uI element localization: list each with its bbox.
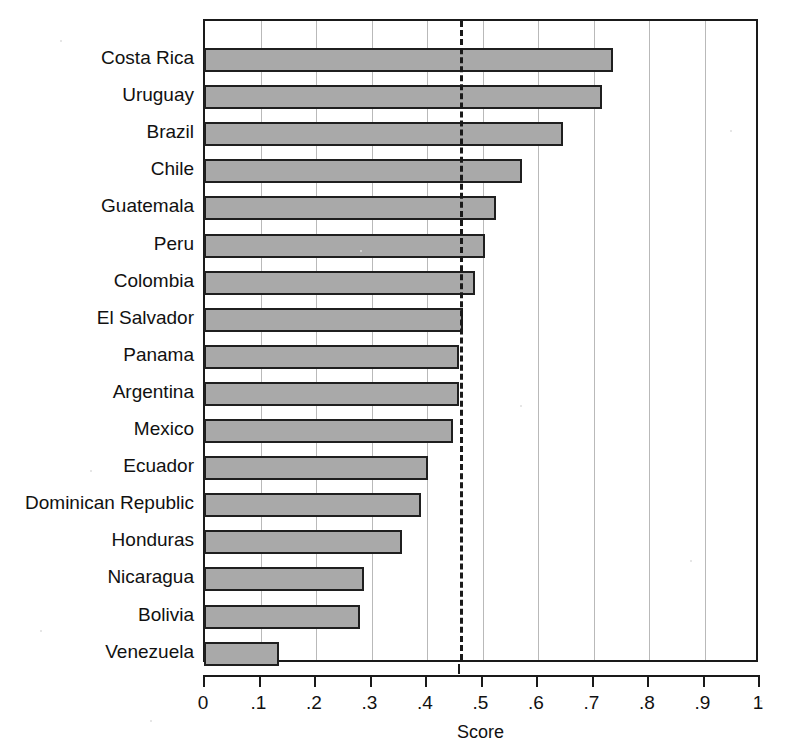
gridline [594,21,595,660]
category-axis-labels: Costa RicaUruguayBrazilChileGuatemalaPer… [0,19,203,662]
x-tick [203,675,205,687]
x-tick-label: 1 [738,692,778,714]
x-axis-title: Score [203,722,758,743]
bar [204,530,402,554]
x-tick [647,675,649,687]
bar [204,271,475,295]
plot-area [203,19,758,662]
x-tick-label: .8 [627,692,667,714]
category-label-chile: Chile [3,157,203,181]
category-label-argentina: Argentina [3,380,203,404]
x-minor-tick [458,664,460,674]
bar [204,642,279,666]
bar-chart: Costa RicaUruguayBrazilChileGuatemalaPer… [0,0,790,753]
bar [204,196,496,220]
speckle [150,720,152,722]
x-tick-label: .7 [572,692,612,714]
category-label-ecuador: Ecuador [3,454,203,478]
gridline [316,21,317,660]
bar [204,493,421,517]
x-tick [758,675,760,687]
bar [204,382,459,406]
x-tick [703,675,705,687]
bar [204,48,613,72]
bar [204,345,459,369]
category-label-colombia: Colombia [3,269,203,293]
bar [204,456,428,480]
category-label-venezuela: Venezuela [3,640,203,664]
bar [204,605,360,629]
x-tick [370,675,372,687]
x-tick [259,675,261,687]
category-label-honduras: Honduras [3,528,203,552]
category-label-uruguay: Uruguay [3,83,203,107]
x-tick-label: .6 [516,692,556,714]
x-tick-label: .1 [239,692,279,714]
bar [204,234,485,258]
x-tick-label: .9 [683,692,723,714]
bar [204,419,453,443]
bar [204,85,602,109]
gridline [261,21,262,660]
x-tick [314,675,316,687]
bar [204,159,522,183]
x-tick-label: .2 [294,692,334,714]
x-tick [481,675,483,687]
x-tick [592,675,594,687]
mean-reference-line [460,21,463,660]
gridline [705,21,706,660]
gridline [372,21,373,660]
bar [204,122,563,146]
gridline [538,21,539,660]
x-tick-label: .4 [405,692,445,714]
x-tick-label: 0 [183,692,223,714]
gridline [483,21,484,660]
category-label-bolivia: Bolivia [3,603,203,627]
x-tick [425,675,427,687]
category-label-mexico: Mexico [3,417,203,441]
category-label-dominican-republic: Dominican Republic [3,491,203,515]
x-tick-label: .3 [350,692,390,714]
category-label-guatemala: Guatemala [3,194,203,218]
bar [204,308,463,332]
bar [204,567,364,591]
x-tick-label: .5 [461,692,501,714]
category-label-costa-rica: Costa Rica [3,46,203,70]
x-tick [536,675,538,687]
category-label-panama: Panama [3,343,203,367]
gridline [427,21,428,660]
category-label-el-salvador: El Salvador [3,306,203,330]
category-label-nicaragua: Nicaragua [3,565,203,589]
category-label-peru: Peru [3,232,203,256]
gridline [649,21,650,660]
category-label-brazil: Brazil [3,120,203,144]
